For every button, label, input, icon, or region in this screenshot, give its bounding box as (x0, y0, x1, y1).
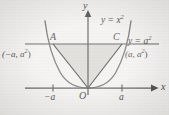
coordinate-c-close: ) (145, 49, 148, 59)
parabola-equation-text: y = x (101, 15, 121, 25)
tick-label-negative-a: −a (44, 93, 55, 103)
horizontal-line-equation-label: y = a2 (128, 35, 151, 47)
coordinate-label-c: (a, a2) (125, 48, 148, 59)
coordinate-a-open: (−a, a (2, 49, 25, 59)
y-axis-label: y (83, 1, 87, 11)
x-axis-arrowhead (151, 85, 159, 92)
tick-label-positive-a: a (119, 93, 124, 103)
line-equation-text: y = a (128, 36, 148, 46)
origin-label: O (79, 91, 86, 101)
x-axis-label: x (161, 82, 165, 92)
y-axis-arrowhead (85, 10, 92, 17)
parabola-figure: y x O A C −a a y = x2 y = a2 (−a, a2) (a… (0, 0, 169, 115)
point-c-label: C (113, 32, 120, 42)
coordinate-c-open: (a, a (125, 49, 142, 59)
coordinate-a-close: ) (28, 49, 31, 59)
parabola-curve (43, 22, 45, 61)
parabola-equation-exponent: 2 (121, 13, 124, 20)
coordinate-label-a: (−a, a2) (2, 48, 31, 59)
point-a-label: A (50, 32, 56, 42)
line-equation-exponent: 2 (148, 34, 151, 41)
parabola-equation-label: y = x2 (101, 14, 124, 26)
